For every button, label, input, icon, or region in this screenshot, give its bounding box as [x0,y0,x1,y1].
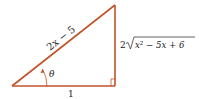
opposite-coefficient-label: 2 [120,40,126,50]
triangle-diagram: 2x − 5 θ 1 2 x² − 5x + 6 [0,0,199,99]
angle-theta-label: θ [49,69,55,79]
opposite-radicand-label: x² − 5x + 6 [135,40,185,50]
adjacent-label: 1 [68,89,74,99]
hypotenuse-side [12,5,115,86]
